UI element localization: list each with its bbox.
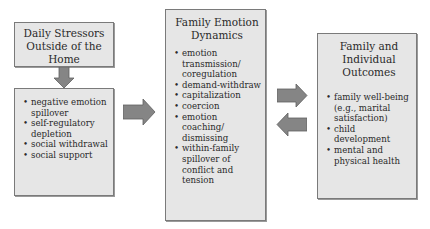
outcomes-box: Family and Individual Outcomes family we…	[317, 33, 417, 199]
list-item: demand-withdraw	[173, 80, 261, 91]
title-line: Outside of the	[15, 40, 113, 53]
title-line: Family and	[325, 40, 413, 53]
title-line: Family Emotion	[173, 16, 261, 29]
list-item: social support	[22, 150, 109, 161]
right-arrow-icon	[277, 84, 308, 107]
list-item: emotion coaching/ dismissing	[173, 112, 261, 144]
daily-stressors-box: Daily Stressors Outside of the Home	[14, 22, 114, 67]
title-line: Outcomes	[325, 66, 413, 79]
outcomes-title: Family and Individual Outcomes	[325, 40, 413, 79]
title-line: Dynamics	[173, 29, 261, 42]
list-item: emotion transmission/ coregulation	[173, 48, 261, 80]
down-arrow-icon	[54, 67, 74, 89]
list-item: within-family spillover of conflict and …	[173, 143, 261, 185]
family-emotion-dynamics-list: emotion transmission/ coregulation deman…	[173, 48, 261, 186]
list-item: coercion	[173, 101, 261, 112]
list-item: family well-being (e.g., marital satisfa…	[325, 92, 413, 124]
list-item: self-regulatory depletion	[22, 118, 109, 139]
title-line: Individual	[325, 53, 413, 66]
outcomes-list: family well-being (e.g., marital satisfa…	[325, 92, 413, 166]
list-item: child development	[325, 124, 413, 145]
list-item: negative emotion spillover	[22, 97, 109, 118]
list-item: capitalization	[173, 90, 261, 101]
title-line: Home	[15, 53, 113, 66]
list-item: social withdrawal	[22, 139, 109, 150]
stress-processes-list: negative emotion spillover self-regulato…	[22, 97, 109, 161]
title-line: Daily Stressors	[15, 27, 113, 40]
list-item: mental and physical health	[325, 145, 413, 166]
daily-stressors-title: Daily Stressors Outside of the Home	[15, 27, 113, 66]
right-arrow-icon	[123, 99, 156, 125]
stress-processes-box: negative emotion spillover self-regulato…	[14, 88, 114, 196]
family-emotion-dynamics-box: Family Emotion Dynamics emotion transmis…	[165, 9, 266, 221]
family-emotion-dynamics-title: Family Emotion Dynamics	[173, 16, 261, 42]
left-arrow-icon	[276, 113, 307, 136]
